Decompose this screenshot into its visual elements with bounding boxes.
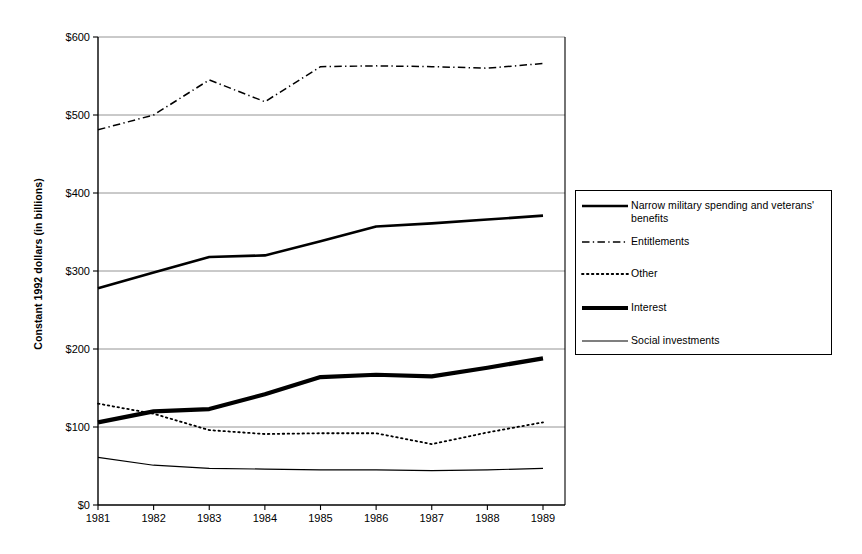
chart-canvas (98, 37, 565, 505)
legend-item-label: Entitlements (630, 235, 689, 248)
legend-line-swatch-icon (582, 334, 630, 348)
x-axis-tick-label: 1981 (68, 512, 128, 524)
plot-area (98, 37, 565, 505)
y-axis-tick-label: $600 (30, 31, 90, 43)
series-line-1 (98, 64, 543, 130)
legend-item-label: Narrow military spending and veterans' b… (630, 199, 827, 224)
y-axis-tick-label: $500 (30, 109, 90, 121)
x-axis-tick-label: 1983 (179, 512, 239, 524)
y-axis-tick-label: $400 (30, 187, 90, 199)
x-axis-tick-label: 1985 (291, 512, 351, 524)
legend-item[interactable]: Interest (582, 301, 827, 315)
legend-line-swatch-icon (582, 235, 630, 249)
legend-item-label: Interest (630, 301, 666, 314)
legend-item-label: Social investments (630, 334, 719, 347)
legend-line-swatch-icon (582, 199, 630, 213)
x-axis-tick-label: 1987 (402, 512, 462, 524)
y-axis-tick-label: $300 (30, 265, 90, 277)
legend-item-label: Other (630, 267, 658, 280)
y-axis-tick-label: $100 (30, 421, 90, 433)
x-axis-tick-label: 1986 (346, 512, 406, 524)
legend-line-swatch-icon (582, 301, 630, 315)
legend-line-swatch-icon (582, 267, 630, 281)
legend-item[interactable]: Other (582, 267, 827, 281)
x-axis-tick-label: 1988 (457, 512, 517, 524)
x-axis-tick-label: 1982 (124, 512, 184, 524)
y-axis-tick-label: $0 (30, 499, 90, 511)
chart-figure: Constant 1992 dollars (in billions) $600… (0, 0, 862, 554)
y-axis-tick-labels: $600$500$400$300$200$100$0 (22, 37, 90, 505)
chart-legend: Narrow military spending and veterans' b… (575, 190, 832, 355)
x-axis-tick-labels: 198119821983198419851986198719881989 (98, 512, 565, 532)
legend-item[interactable]: Entitlements (582, 235, 827, 249)
legend-item[interactable]: Social investments (582, 334, 827, 348)
x-axis-tick-label: 1989 (513, 512, 573, 524)
series-line-0 (98, 216, 543, 289)
legend-item[interactable]: Narrow military spending and veterans' b… (582, 199, 827, 224)
x-axis-tick-label: 1984 (235, 512, 295, 524)
y-axis-tick-label: $200 (30, 343, 90, 355)
series-line-3 (98, 358, 543, 422)
series-line-4 (98, 457, 543, 470)
